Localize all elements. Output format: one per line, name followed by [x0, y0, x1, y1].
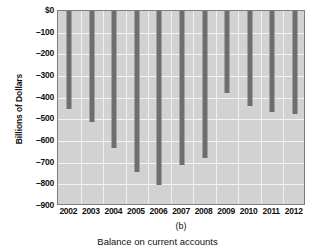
vertical-gridline [238, 11, 239, 204]
plot-area [57, 10, 305, 205]
bar [225, 11, 230, 93]
bar [180, 11, 185, 165]
y-axis-tick-labels: $0–100–200–300–400–500–600–700–800–900 [22, 10, 56, 205]
y-tick-label: –300 [36, 71, 54, 80]
y-tick-label: –200 [36, 49, 54, 58]
panel-label: (b) [57, 221, 305, 231]
y-tick-label: –400 [36, 92, 54, 101]
x-tick-label: 2012 [285, 207, 303, 216]
vertical-gridline [126, 11, 127, 204]
vertical-gridline [193, 11, 194, 204]
y-tick-label: –100 [36, 27, 54, 36]
x-tick-label: 2004 [105, 207, 123, 216]
x-tick-label: 2009 [217, 207, 235, 216]
bar [112, 11, 117, 148]
vertical-gridline [103, 11, 104, 204]
vertical-gridline [261, 11, 262, 204]
bar [134, 11, 139, 172]
vertical-gridline [216, 11, 217, 204]
horizontal-gridline [58, 184, 304, 185]
plot-inner [58, 11, 304, 204]
chart-caption: Balance on current accounts [0, 236, 315, 247]
y-tick-label: –700 [36, 157, 54, 166]
chart-figure: Billions of Dollars $0–100–200–300–400–5… [0, 0, 315, 251]
bar [202, 11, 207, 158]
x-tick-label: 2007 [172, 207, 190, 216]
vertical-gridline [283, 11, 284, 204]
x-tick-label: 2006 [150, 207, 168, 216]
x-tick-label: 2011 [263, 207, 280, 216]
bar [247, 11, 252, 106]
x-tick-label: 2005 [127, 207, 145, 216]
bar [292, 11, 297, 114]
x-tick-label: 2010 [240, 207, 258, 216]
bar [157, 11, 162, 185]
x-tick-label: 2003 [82, 207, 100, 216]
y-tick-label: –900 [36, 201, 54, 210]
y-tick-label: –600 [36, 136, 54, 145]
bar [89, 11, 94, 122]
x-tick-label: 2002 [59, 207, 77, 216]
vertical-gridline [171, 11, 172, 204]
y-tick-label: $0 [45, 6, 54, 15]
bar [270, 11, 275, 112]
y-tick-label: –500 [36, 114, 54, 123]
vertical-gridline [148, 11, 149, 204]
x-tick-label: 2008 [195, 207, 213, 216]
x-axis-tick-labels: 2002200320042005200620072008200920102011… [57, 207, 305, 221]
y-tick-label: –800 [36, 179, 54, 188]
vertical-gridline [81, 11, 82, 204]
bar [67, 11, 72, 109]
